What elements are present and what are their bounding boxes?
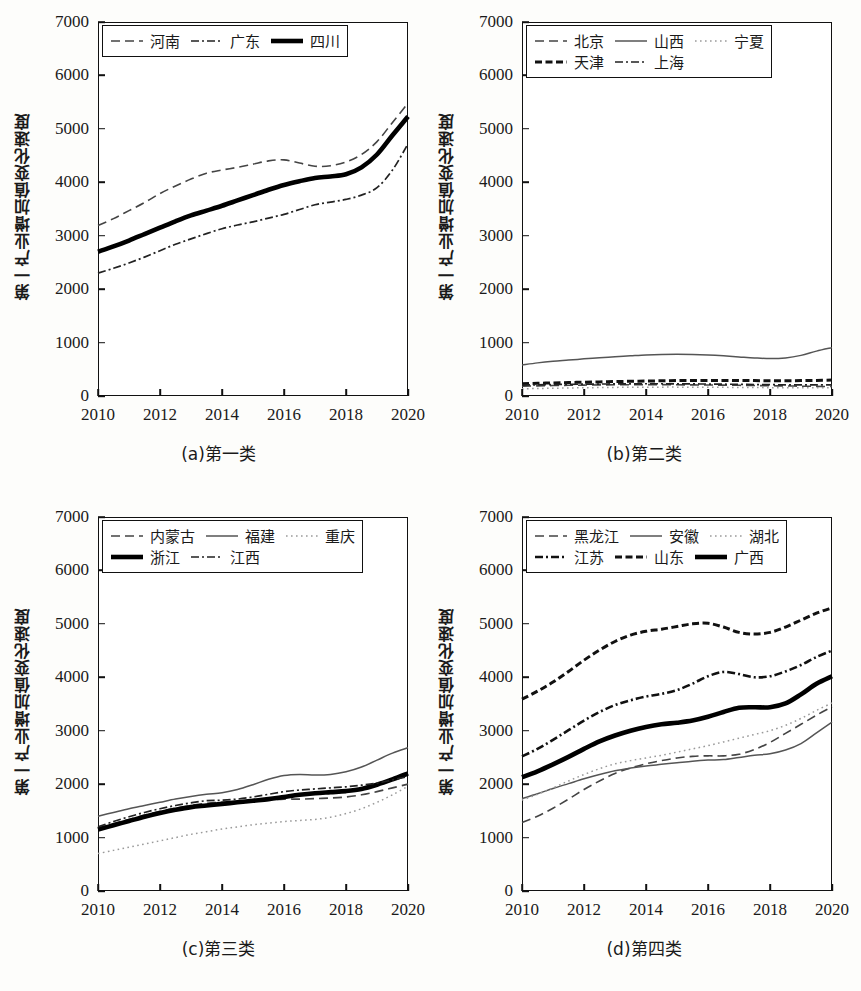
- legend-line-icon: [270, 35, 304, 47]
- panel-c-xtick-label: 2016: [267, 891, 301, 920]
- legend-line-icon: [110, 35, 144, 47]
- panel-d-xtick-mark: [707, 884, 709, 891]
- legend-item-empty: [270, 551, 310, 563]
- panel-a-xtick-label: 2014: [205, 396, 239, 425]
- panel-a-xtick-label: 2010: [81, 396, 115, 425]
- legend-item-福建[interactable]: 福建: [205, 525, 275, 546]
- panel-d-ytick-mark: [522, 623, 529, 625]
- legend-line-icon: [534, 551, 568, 563]
- legend-item-河南[interactable]: 河南: [110, 30, 180, 51]
- panel-c-xtick-label: 2014: [205, 891, 239, 920]
- panel-a-ytick-mark: [98, 21, 105, 23]
- legend-line-icon: [614, 56, 648, 68]
- panel-b-legend: 北京山西宁夏天津上海: [526, 25, 772, 78]
- series-line-广东: [98, 144, 408, 273]
- panel-d-ytick-label: 6000: [479, 560, 522, 580]
- panel-c-xtick-mark: [97, 884, 99, 891]
- legend-line-icon: [110, 551, 144, 563]
- panel-b-ytick-label: 6000: [479, 65, 522, 85]
- panel-a-xtick-mark: [97, 389, 99, 396]
- panel-c-xtick-label: 2010: [81, 891, 115, 920]
- panel-d-xtick-mark: [645, 884, 647, 891]
- panel-a-xtick-label: 2020: [391, 396, 425, 425]
- legend-item-山东[interactable]: 山东: [614, 546, 684, 567]
- panel-a-xtick-label: 2018: [329, 396, 363, 425]
- panel-b-xtick-mark: [707, 389, 709, 396]
- panel-d-ytick-mark: [522, 676, 529, 678]
- panel-d-xtick-label: 2018: [753, 891, 787, 920]
- legend-item-黑龙江[interactable]: 黑龙江: [534, 525, 619, 546]
- panel-d-xtick-label: 2016: [691, 891, 725, 920]
- legend-item-广西[interactable]: 广西: [694, 546, 764, 567]
- panel-d-xtick-label: 2020: [815, 891, 849, 920]
- panel-b: 第一产业增加值变化速度 北京山西宁夏天津上海 01000200030004000…: [430, 8, 858, 478]
- panel-c-legend: 内蒙古福建重庆浙江江西: [102, 520, 363, 573]
- panel-a-ytick-label: 1000: [55, 333, 98, 353]
- legend-label: 湖北: [749, 525, 779, 546]
- legend-label: 黑龙江: [574, 525, 619, 546]
- panel-a-ytick-mark: [98, 75, 105, 77]
- legend-line-icon: [709, 530, 743, 542]
- legend-item-安徽[interactable]: 安徽: [629, 525, 699, 546]
- legend-item-北京[interactable]: 北京: [534, 30, 604, 51]
- panel-c-series: [98, 517, 408, 891]
- panel-c-xtick-label: 2020: [391, 891, 425, 920]
- panel-c: 第一产业增加值变化速度 内蒙古福建重庆浙江江西 0100020003000400…: [6, 503, 431, 973]
- legend-item-江苏[interactable]: 江苏: [534, 546, 604, 567]
- panel-c-ytick-label: 2000: [55, 774, 98, 794]
- panel-c-xtick-label: 2018: [329, 891, 363, 920]
- legend-line-icon: [110, 530, 144, 542]
- series-line-宁夏: [522, 387, 832, 389]
- legend-label: 北京: [574, 30, 604, 51]
- legend-item-上海[interactable]: 上海: [614, 51, 684, 72]
- series-line-山东: [522, 608, 832, 699]
- legend-label: 四川: [310, 30, 340, 51]
- panel-b-xtick-label: 2014: [629, 396, 663, 425]
- legend-item-山西[interactable]: 山西: [614, 30, 684, 51]
- panel-d-ytick-label: 4000: [479, 667, 522, 687]
- legend-line-icon: [534, 530, 568, 542]
- panel-c-ytick-label: 7000: [55, 507, 98, 527]
- panel-d-plot: 黑龙江安徽湖北江苏山东广西 01000200030004000500060007…: [522, 517, 832, 891]
- panel-a-ytick-label: 5000: [55, 119, 98, 139]
- series-line-湖北: [522, 703, 832, 800]
- panel-c-ytick-label: 6000: [55, 560, 98, 580]
- legend-line-icon: [694, 551, 728, 563]
- legend-item-重庆[interactable]: 重庆: [285, 525, 355, 546]
- figure-root: 第一产业增加值变化速度 河南广东四川 010002000300040005000…: [0, 0, 861, 991]
- panel-c-ytick-mark: [98, 623, 105, 625]
- legend-item-江西[interactable]: 江西: [190, 546, 260, 567]
- legend-item-empty: [694, 56, 734, 68]
- legend-item-天津[interactable]: 天津: [534, 51, 604, 72]
- legend-label: 浙江: [150, 546, 180, 567]
- panel-b-xtick-label: 2012: [567, 396, 601, 425]
- legend-item-广东[interactable]: 广东: [190, 30, 260, 51]
- legend-line-icon: [205, 530, 239, 542]
- panel-b-xtick-label: 2016: [691, 396, 725, 425]
- legend-item-四川[interactable]: 四川: [270, 30, 340, 51]
- panel-c-xtick-mark: [159, 884, 161, 891]
- legend-row: 河南广东四川: [110, 30, 340, 51]
- legend-line-icon: [614, 35, 648, 47]
- legend-label: 宁夏: [734, 30, 764, 51]
- panel-d: 第一产业增加值变化速度 黑龙江安徽湖北江苏山东广西 01000200030004…: [430, 503, 858, 973]
- panel-c-ytick-mark: [98, 676, 105, 678]
- legend-label: 广西: [734, 546, 764, 567]
- panel-d-ytick-label: 2000: [479, 774, 522, 794]
- panel-d-ytick-mark: [522, 516, 529, 518]
- legend-label: 重庆: [325, 525, 355, 546]
- legend-label: 福建: [245, 525, 275, 546]
- panel-d-xtick-label: 2012: [567, 891, 601, 920]
- series-line-河南: [98, 103, 408, 225]
- panel-b-plot: 北京山西宁夏天津上海 01000200030004000500060007000…: [522, 22, 832, 396]
- panel-c-ytick-label: 5000: [55, 614, 98, 634]
- legend-item-湖北[interactable]: 湖北: [709, 525, 779, 546]
- panel-a-ytick-label: 4000: [55, 172, 98, 192]
- legend-item-浙江[interactable]: 浙江: [110, 546, 180, 567]
- panel-a-ytick-label: 3000: [55, 226, 98, 246]
- panel-b-ytick-mark: [522, 128, 529, 130]
- panel-d-series: [522, 517, 832, 891]
- panel-b-xtick-label: 2020: [815, 396, 849, 425]
- legend-item-宁夏[interactable]: 宁夏: [694, 30, 764, 51]
- legend-item-内蒙古[interactable]: 内蒙古: [110, 525, 195, 546]
